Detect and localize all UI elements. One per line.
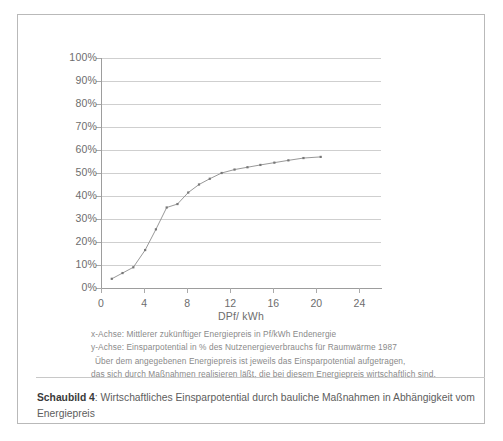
data-point-marker [111, 278, 113, 280]
data-point-marker [121, 272, 123, 274]
note-x-axis: x-Achse: Mittlerer zukünftiger Energiepr… [91, 328, 476, 341]
data-point-marker [187, 191, 189, 193]
y-tick-label: 50% [37, 166, 97, 178]
x-tick-label: 20 [301, 297, 331, 309]
note-y-axis: y-Achse: Einsparpotential in % des Nutze… [91, 341, 476, 354]
y-tick-label: 80% [37, 97, 97, 109]
x-tick-label: 8 [172, 297, 202, 309]
figure-caption: Schaubild 4: Wirtschaftliches Einsparpot… [37, 390, 479, 422]
data-point-marker [246, 166, 248, 168]
x-axis-title: DPf/ kWh [101, 310, 381, 322]
chart-notes: x-Achse: Mittlerer zukünftiger Energiepr… [91, 328, 476, 382]
note-explanation-2: das sich durch Maßnahmen realisieren läß… [91, 368, 476, 381]
data-point-marker [209, 178, 211, 180]
caption-label: Schaubild 4 [37, 392, 95, 403]
caption-text: Wirtschaftliches Einsparpotential durch … [37, 392, 475, 419]
data-point-marker [302, 157, 304, 159]
data-point-marker [287, 159, 289, 161]
y-tick-label: 60% [37, 143, 97, 155]
x-tick-label: 12 [215, 297, 245, 309]
y-tick-label: 70% [37, 120, 97, 132]
y-tick-label: 0% [37, 281, 97, 293]
x-tick-label: 24 [344, 297, 374, 309]
y-tick-label: 30% [37, 212, 97, 224]
x-tick-label: 0 [86, 297, 116, 309]
x-tick-label: 16 [258, 297, 288, 309]
data-point-marker [198, 183, 200, 185]
note-explanation-1: Über dem angegebenen Energiepreis ist je… [91, 355, 476, 368]
y-tick-label: 40% [37, 189, 97, 201]
data-series-line [101, 58, 381, 289]
data-point-marker [233, 168, 235, 170]
x-tick-label: 4 [129, 297, 159, 309]
data-point-marker [166, 206, 168, 208]
data-point-marker [320, 156, 322, 158]
data-point-marker [144, 249, 146, 251]
data-point-marker [221, 172, 223, 174]
caption-divider [36, 377, 485, 378]
series-line [112, 157, 321, 279]
figure-frame: 0%10%20%30%40%50%60%70%80%90%100% 048121… [17, 14, 485, 424]
caption-separator: : [95, 392, 98, 403]
y-tick-label: 10% [37, 258, 97, 270]
y-tick-label: 90% [37, 74, 97, 86]
data-point-marker [259, 164, 261, 166]
data-point-marker [273, 162, 275, 164]
data-point-marker [176, 203, 178, 205]
chart-plot-area: 0%10%20%30%40%50%60%70%80%90%100% 048121… [101, 58, 381, 288]
y-tick-label: 20% [37, 235, 97, 247]
data-point-marker [155, 228, 157, 230]
data-point-marker [132, 266, 134, 268]
y-tick-label: 100% [37, 51, 97, 63]
